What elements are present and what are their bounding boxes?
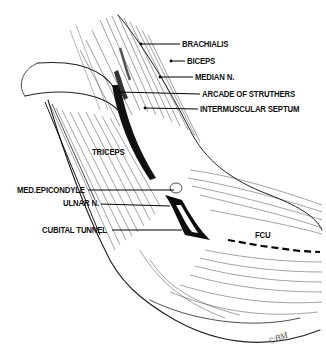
label-fcu: FCU xyxy=(255,230,271,240)
label-median-nerve: MEDIAN N. xyxy=(195,72,234,82)
label-triceps: TRICEPS xyxy=(92,147,125,157)
label-ulnar-nerve: ULNAR N. xyxy=(63,198,99,208)
fcu-dashed-line xyxy=(228,240,320,252)
label-brachialis: BRACHIALIS xyxy=(182,39,228,49)
label-med-epicondyle: MED.EPICONDYLE xyxy=(17,185,85,195)
arm-drawing xyxy=(21,15,322,342)
label-cubital-tunnel: CUBITAL TUNNEL xyxy=(42,225,107,235)
biceps-fibers xyxy=(70,15,200,142)
anatomy-illustration xyxy=(0,0,326,359)
forearm-fibers xyxy=(140,170,322,318)
cubital-tunnel-shading xyxy=(165,183,210,240)
leader-lines xyxy=(88,44,200,230)
label-biceps: BICEPS xyxy=(187,56,215,66)
label-intermuscular-septum: INTERMUSCULAR SEPTUM xyxy=(200,104,299,114)
label-arcade-of-struthers: ARCADE OF STRUTHERS xyxy=(202,89,295,99)
